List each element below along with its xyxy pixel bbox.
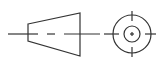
projection-symbol-graphic — [0, 0, 164, 63]
crosshair-icon — [109, 11, 156, 57]
projection-symbol: First-angle projection symbol — [0, 0, 164, 63]
